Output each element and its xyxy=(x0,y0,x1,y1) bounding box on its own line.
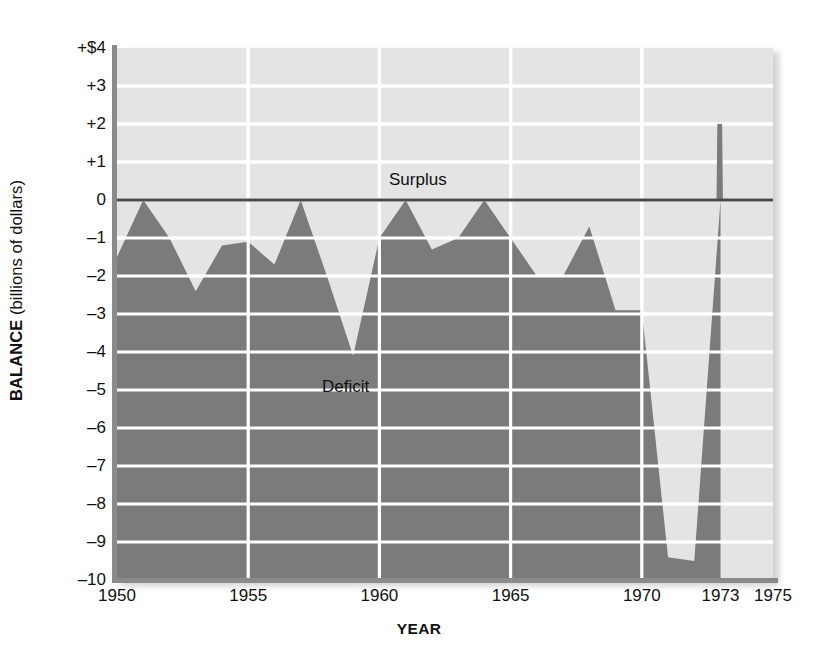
x-axis-title: YEAR xyxy=(0,620,838,638)
y-axis-tick-label: –6 xyxy=(87,418,106,438)
y-axis-tick-label: –4 xyxy=(87,342,106,362)
x-axis-tick-label: 1950 xyxy=(98,586,136,606)
plot-inner xyxy=(117,48,773,580)
x-axis-tick-label: 1973 xyxy=(702,586,740,606)
y-axis-line xyxy=(112,45,117,583)
x-axis-tick-label: 1960 xyxy=(360,586,398,606)
x-axis-tick-labels: 1950195519601965197019731975 xyxy=(0,586,838,616)
y-axis-title: BALANCE (billions of dollars) xyxy=(0,0,34,580)
x-axis-line xyxy=(112,578,778,583)
y-axis-tick-labels: +$4+3+2+10–1–2–3–4–5–6–7–8–9–10 xyxy=(34,0,112,667)
y-axis-tick-label: 0 xyxy=(97,190,106,210)
y-axis-tick-label: +2 xyxy=(87,114,106,134)
x-axis-tick-label: 1975 xyxy=(754,586,792,606)
y-axis-tick-label: –3 xyxy=(87,304,106,324)
y-axis-tick-label: +1 xyxy=(87,152,106,172)
y-axis-title-rest: (billions of dollars) xyxy=(8,179,26,319)
y-axis-tick-label: +3 xyxy=(87,76,106,96)
y-axis-tick-label: +$4 xyxy=(77,38,106,58)
x-axis-tick-label: 1965 xyxy=(492,586,530,606)
y-axis-tick-label: –7 xyxy=(87,456,106,476)
area-chart-svg xyxy=(117,48,773,580)
x-axis-tick-label: 1970 xyxy=(623,586,661,606)
y-axis-tick-label: –1 xyxy=(87,228,106,248)
y-axis-tick-label: –5 xyxy=(87,380,106,400)
surplus-spike xyxy=(717,124,723,200)
y-axis-title-bold: BALANCE xyxy=(8,319,26,400)
y-axis-tick-label: –2 xyxy=(87,266,106,286)
plot-area xyxy=(117,48,773,580)
deficit-annotation: Deficit xyxy=(322,377,369,397)
y-axis-tick-label: –9 xyxy=(87,532,106,552)
chart-figure: BALANCE (billions of dollars) +$4+3+2+10… xyxy=(0,0,838,667)
x-axis-tick-label: 1955 xyxy=(229,586,267,606)
surplus-annotation: Surplus xyxy=(389,170,447,190)
y-axis-tick-label: –8 xyxy=(87,494,106,514)
